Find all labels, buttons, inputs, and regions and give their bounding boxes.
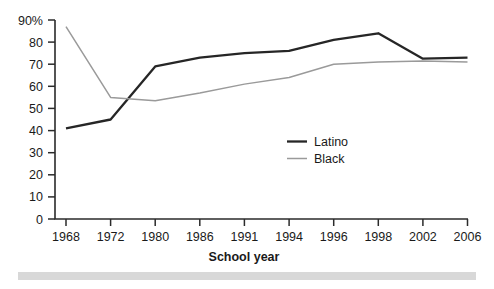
x-tick-label: 1972 — [97, 230, 125, 244]
x-tick-label: 1996 — [320, 230, 348, 244]
x-tick-label: 1994 — [275, 230, 303, 244]
y-tick-label: 0 — [36, 213, 43, 227]
y-tick-label: 90% — [18, 14, 43, 28]
y-axis-labels: 0 10 20 30 40 50 60 70 80 90% — [18, 14, 43, 227]
y-tick-label: 70 — [29, 58, 43, 72]
footer-divider-bar — [18, 272, 476, 280]
x-tick-label: 2006 — [454, 230, 482, 244]
y-tick-label: 10 — [29, 190, 43, 204]
x-tick-label: 2002 — [409, 230, 437, 244]
chart-canvas: 0 10 20 30 40 50 60 70 80 90% 1968 — [0, 0, 494, 289]
y-tick-label: 20 — [29, 168, 43, 182]
x-tick-label: 1986 — [186, 230, 214, 244]
y-tick-label: 40 — [29, 124, 43, 138]
legend-label-latino: Latino — [314, 135, 348, 149]
chart-legend: Latino Black — [287, 135, 348, 166]
legend-label-black: Black — [314, 152, 345, 166]
x-axis-labels: 1968 1972 1980 1986 1991 1994 1996 1998 … — [52, 230, 481, 244]
x-tick-label: 1991 — [230, 230, 258, 244]
series-line-black — [66, 27, 468, 101]
y-axis-ticks — [48, 20, 55, 219]
x-axis-ticks — [66, 219, 468, 226]
y-tick-label: 80 — [29, 36, 43, 50]
x-tick-label: 1968 — [52, 230, 80, 244]
y-tick-label: 60 — [29, 80, 43, 94]
line-chart: 0 10 20 30 40 50 60 70 80 90% 1968 — [0, 0, 494, 289]
y-tick-label: 50 — [29, 102, 43, 116]
y-tick-label: 30 — [29, 146, 43, 160]
x-axis-title: School year — [209, 250, 280, 264]
x-tick-label: 1980 — [141, 230, 169, 244]
x-tick-label: 1998 — [364, 230, 392, 244]
